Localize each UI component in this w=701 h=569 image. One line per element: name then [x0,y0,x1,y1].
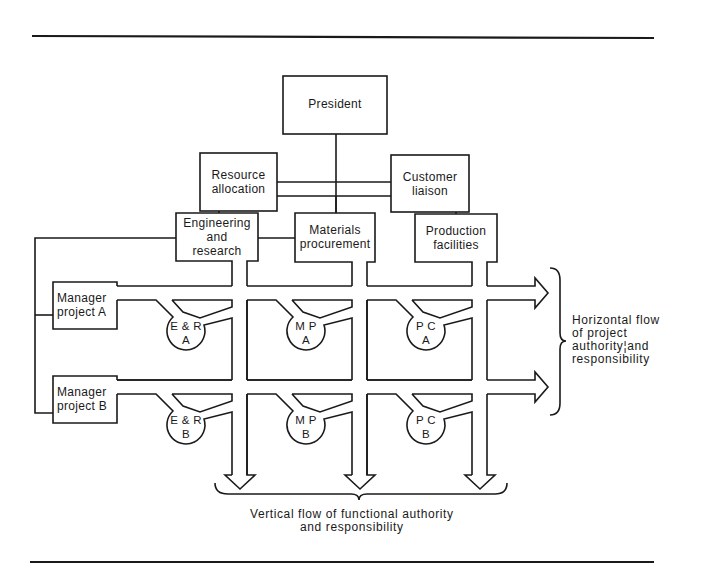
cell-label[interactable]: M P A [282,319,330,347]
customer-liaison-label: Customer liaison [391,170,469,198]
horizontal-flow-note: Horizontal flow of project authority¦and… [572,314,660,366]
cell-label[interactable]: P C B [402,413,450,441]
matrix-organization-diagram [0,0,701,569]
cell-cap [412,300,472,318]
cell-label[interactable]: M P B [282,413,330,441]
cell-label[interactable]: E & R B [162,413,210,441]
cell-cap [292,394,352,412]
cell-cap [172,394,232,412]
cell-cap [292,300,352,318]
cell-label[interactable]: E & R A [162,319,210,347]
manager-b-label: Manager project B [53,385,121,413]
vertical-flow-note: Vertical flow of functional authority an… [250,508,454,534]
arrow-right-a [487,278,548,308]
arrow-down-2 [345,394,375,489]
cell-label[interactable]: P C A [402,319,450,347]
top-rule [32,36,654,38]
materials-label: Materials procurement [295,223,375,251]
arrow-down-3 [465,394,495,489]
arrow-right-b [487,372,548,402]
arrow-down-1 [225,394,255,489]
cell-cap [172,300,232,318]
engineering-label: Engineering and research [176,216,258,258]
cell-cap [412,394,472,412]
production-label: Production facilities [415,224,497,252]
president-label: President [283,97,387,111]
horizontal-brace [550,268,566,415]
manager-a-label: Manager project A [53,291,121,319]
vertical-brace [215,483,507,500]
resource-allocation-label: Resource allocation [200,168,277,196]
